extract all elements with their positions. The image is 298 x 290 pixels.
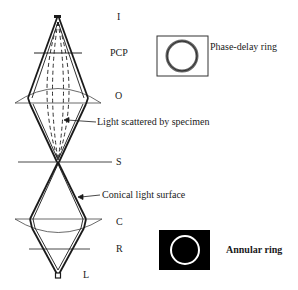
annulus-inset <box>159 230 210 270</box>
label-objective: O <box>115 91 122 101</box>
conical-light-middle <box>28 98 88 162</box>
lamp-point-marker <box>56 273 61 278</box>
annotation-phase-delay-ring: Phase-delay ring <box>210 42 277 52</box>
phase-plate-inset <box>157 36 208 76</box>
label-image-plane: I <box>117 12 120 22</box>
image-point-marker <box>54 15 61 18</box>
annotation-annular-ring: Annular ring <box>226 245 282 255</box>
condenser-lens <box>15 219 102 233</box>
label-ring: R <box>116 244 123 254</box>
label-lamp: L <box>83 270 89 280</box>
label-specimen: S <box>116 157 122 167</box>
label-phase-contrast-plate: PCP <box>110 48 128 58</box>
annotation-light-scattered: Light scattered by specimen <box>97 117 209 127</box>
scattered-light-rays <box>47 22 69 160</box>
conical-light-source <box>32 228 84 274</box>
label-condenser: C <box>116 217 123 227</box>
annotation-conical-light: Conical light surface <box>102 190 185 200</box>
conical-light-lower <box>30 162 86 228</box>
conical-light-upper <box>28 18 88 98</box>
